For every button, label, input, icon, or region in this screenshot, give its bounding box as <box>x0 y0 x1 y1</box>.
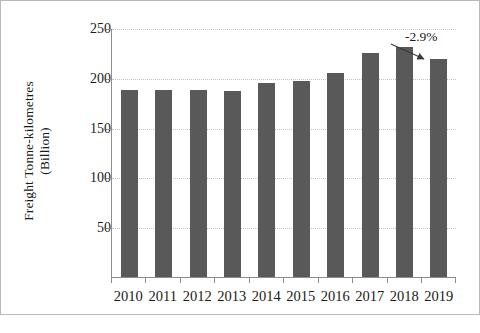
x-axis-tick-mark <box>111 278 146 286</box>
x-axis-tick-mark <box>387 278 422 286</box>
x-axis-tick-label-2013: 2013 <box>215 286 250 308</box>
bar-cell <box>318 29 352 277</box>
x-axis-tick-label-2014: 2014 <box>249 286 284 308</box>
bar-2016 <box>327 73 344 277</box>
bar-cell <box>422 29 456 277</box>
x-axis-tick-label-2010: 2010 <box>111 286 146 308</box>
y-axis-title-line2: (Billion) <box>37 81 53 221</box>
chart-figure: Freight Tonne-kilometres (Billion) 50100… <box>0 0 480 315</box>
bar-2017 <box>362 53 379 277</box>
bar-2014 <box>258 83 275 277</box>
bar-2013 <box>224 91 241 277</box>
bar-2018 <box>396 47 413 277</box>
footer-watermark <box>2 318 122 331</box>
bar-cell <box>181 29 215 277</box>
y-axis-title-line1: Freight Tonne-kilometres <box>21 81 36 221</box>
x-axis-tick-label-2019: 2019 <box>422 286 457 308</box>
x-axis-tick-label-2011: 2011 <box>146 286 181 308</box>
bar-2010 <box>121 90 138 277</box>
bar-2011 <box>155 90 172 277</box>
y-axis-tick-label: 50 <box>65 221 111 235</box>
bar-cell <box>250 29 284 277</box>
x-axis-tick-label-2012: 2012 <box>180 286 215 308</box>
y-axis-tick-label: 150 <box>65 122 111 136</box>
y-axis-tick-label: 100 <box>65 171 111 185</box>
x-axis-tick-labels: 2010201120122013201420152016201720182019 <box>111 286 456 308</box>
plot-area <box>111 29 456 278</box>
bar-2012 <box>190 90 207 277</box>
y-axis-title-text: Freight Tonne-kilometres (Billion) <box>21 81 53 221</box>
x-axis-tick-label-2015: 2015 <box>284 286 319 308</box>
bar-cell <box>215 29 249 277</box>
y-axis-tick-label: 200 <box>65 72 111 86</box>
bar-cell <box>112 29 146 277</box>
bar-series <box>112 29 456 277</box>
x-axis-tick-mark <box>318 278 353 286</box>
y-axis-title: Freight Tonne-kilometres (Billion) <box>9 1 65 301</box>
y-axis-tick-label: 250 <box>65 22 111 36</box>
bar-cell <box>284 29 318 277</box>
x-axis-tick-label-2018: 2018 <box>387 286 422 308</box>
x-axis-tick-mark <box>353 278 388 286</box>
annotation-label: -2.9% <box>405 29 438 44</box>
x-axis-tick-label-2017: 2017 <box>353 286 388 308</box>
x-axis-tick-mark <box>180 278 215 286</box>
x-axis-tick-marks <box>111 278 456 286</box>
y-axis-tick-labels: 50100150200250 <box>59 29 111 278</box>
bar-2015 <box>293 81 310 277</box>
x-axis-tick-label-2016: 2016 <box>318 286 353 308</box>
x-axis-tick-mark <box>284 278 319 286</box>
x-axis-tick-mark <box>215 278 250 286</box>
bar-cell <box>387 29 421 277</box>
bar-cell <box>353 29 387 277</box>
bar-2019 <box>430 59 447 277</box>
bar-cell <box>146 29 180 277</box>
x-axis-tick-mark <box>422 278 457 286</box>
x-axis-tick-mark <box>146 278 181 286</box>
x-axis-tick-end <box>455 278 456 283</box>
x-axis-tick-mark <box>249 278 284 286</box>
